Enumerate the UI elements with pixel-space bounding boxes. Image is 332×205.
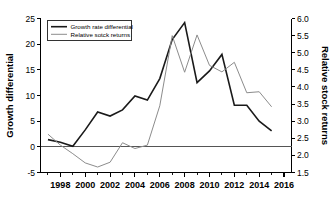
left-axis-title: Growth differential bbox=[4, 53, 15, 137]
right-axis-tick-label: 5.0 bbox=[297, 48, 309, 58]
x-axis-tick-label: 2014 bbox=[249, 180, 269, 190]
x-axis-tick-label: 2000 bbox=[75, 180, 95, 190]
x-axis-tick-label: 2002 bbox=[100, 180, 120, 190]
right-axis-tick-label: 5.5 bbox=[297, 31, 309, 41]
x-axis-tick-label: 2006 bbox=[150, 180, 170, 190]
left-axis-tick-label: -5 bbox=[27, 168, 35, 178]
x-axis-tick-label: 2004 bbox=[125, 180, 145, 190]
x-axis-tick-label: 2012 bbox=[224, 180, 244, 190]
right-axis-title: Relative stock returns bbox=[320, 46, 331, 145]
left-axis-tick-label: 15 bbox=[26, 65, 36, 75]
left-axis-tick-label: 5 bbox=[30, 116, 35, 126]
legend-label: Relative sotck returns bbox=[71, 31, 131, 38]
chart-legend: Growth rate differentialRelative sotck r… bbox=[48, 21, 133, 41]
chart-canvas: -50510152025 1.52.02.53.03.54.04.55.05.5… bbox=[0, 0, 332, 205]
left-axis-tick-label: 25 bbox=[26, 14, 36, 24]
legend-label: Growth rate differential bbox=[71, 23, 133, 30]
right-axis-tick-label: 1.5 bbox=[297, 168, 309, 178]
right-axis-tick-label: 4.5 bbox=[297, 65, 309, 75]
left-axis-tick-label: 10 bbox=[26, 91, 36, 101]
right-axis-tick-label: 2.5 bbox=[297, 133, 309, 143]
chart-figure: -50510152025 1.52.02.53.03.54.04.55.05.5… bbox=[0, 0, 332, 205]
x-axis-tick-label: 2010 bbox=[199, 180, 219, 190]
right-axis-tick-label: 3.0 bbox=[297, 116, 309, 126]
x-axis-tick-label: 1998 bbox=[50, 180, 70, 190]
x-axis-tick-label: 2016 bbox=[274, 180, 294, 190]
left-axis-tick-label: 0 bbox=[30, 142, 35, 152]
x-axis-tick-label: 2008 bbox=[175, 180, 195, 190]
right-axis-tick-label: 6.0 bbox=[297, 14, 309, 24]
left-axis-tick-label: 20 bbox=[26, 39, 36, 49]
right-axis-tick-label: 2.0 bbox=[297, 150, 309, 160]
right-axis-tick-label: 4.0 bbox=[297, 82, 309, 92]
right-axis-tick-label: 3.5 bbox=[297, 99, 309, 109]
